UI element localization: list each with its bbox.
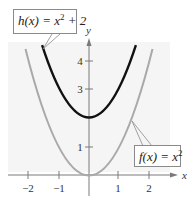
x-tick-label: 2 [146,182,152,194]
x-tick-label: 1 [115,182,121,194]
h-label-text: h(x) = x [18,13,60,28]
x-axis-arrow-icon [170,173,178,178]
h-label-suffix: + 2 [64,13,86,28]
y-tick-label: 4 [77,55,83,67]
h-function-label: h(x) = x2 + 2 [13,9,77,34]
x-tick-label: −2 [22,182,34,194]
f-function-label: f(x) = x2 [134,145,181,167]
f-label-exponent: 2 [178,148,183,158]
f-label-text: f(x) = x [139,149,178,164]
y-tick-label: 3 [77,83,83,95]
x-tick-label: −1 [53,182,65,194]
x-axis-label: x [181,169,187,181]
y-tick-label: 1 [77,141,83,153]
